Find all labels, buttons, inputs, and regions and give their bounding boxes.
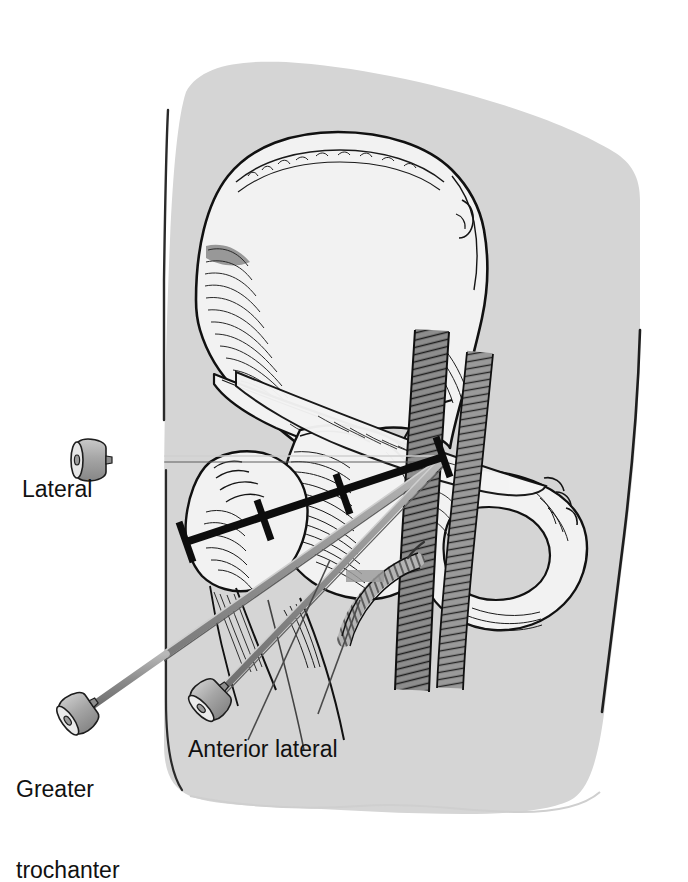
label-greater-trochanter-line1: Greater — [16, 776, 120, 803]
label-greater-trochanter-approach: Greater trochanter — [16, 722, 120, 882]
label-greater-trochanter-line2: trochanter — [16, 857, 120, 882]
needle-hub-lateral — [71, 439, 112, 481]
label-lateral-approach: Lateral — [22, 476, 92, 503]
gray-marker-bar — [346, 570, 384, 582]
needle-shafts-outside — [92, 459, 170, 706]
label-anterior-lateral-approach: Anterior lateral — [188, 736, 338, 763]
